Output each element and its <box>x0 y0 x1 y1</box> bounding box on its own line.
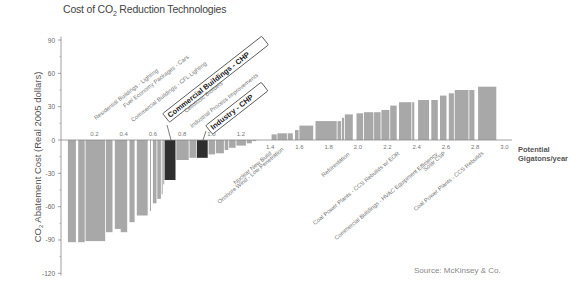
x-tick-label: 1.4 <box>266 144 275 150</box>
x-tick-label: 2.6 <box>442 144 451 150</box>
y-tick-label: 30 <box>48 103 56 110</box>
bar <box>277 133 287 140</box>
y-tick-label: -30 <box>46 170 56 177</box>
bar <box>68 140 76 242</box>
bar <box>390 106 397 140</box>
bar <box>150 140 151 211</box>
y-tick-label: -60 <box>46 203 56 210</box>
x-axis-label: Potential Gigatons/year <box>518 145 568 163</box>
bar <box>229 140 236 148</box>
bar <box>418 100 429 140</box>
bar <box>345 114 353 140</box>
bar-annotation: Reforestation <box>320 151 350 178</box>
bar <box>153 140 157 203</box>
bar <box>316 121 337 140</box>
bar-annotation: Nuclear New Build <box>232 150 272 185</box>
bar <box>163 140 164 184</box>
bar <box>342 118 344 140</box>
bar <box>176 140 188 160</box>
bar <box>338 121 342 140</box>
bar <box>295 130 299 140</box>
bar-annotation: Coal Power Plants - CCS Rebuilds w/ EOR <box>312 150 401 226</box>
abatement-cost-chart: 9060300-30-60-90-1200.20.40.60.81.01.21.… <box>0 0 587 295</box>
bar <box>399 102 411 140</box>
bar <box>190 140 197 158</box>
x-tick-label: 2.4 <box>412 144 421 150</box>
source-note: Source: McKinsey & Co. <box>414 266 501 275</box>
bar <box>86 140 106 241</box>
bar <box>469 90 474 140</box>
bar <box>381 110 389 140</box>
svg-text:Industry - CHP: Industry - CHP <box>209 92 256 131</box>
bar <box>440 96 447 140</box>
x-tick-label: 1.6 <box>295 144 304 150</box>
svg-text:Coal Power Plants - CCS Rebuil: Coal Power Plants - CCS Rebuilds w/ EOR <box>312 150 401 226</box>
x-tick-label: 2.2 <box>383 144 392 150</box>
bar <box>106 140 113 232</box>
bar <box>130 140 135 222</box>
bar <box>225 140 229 150</box>
bar-annotation: Onshore Wind - Low Penetration <box>216 146 284 205</box>
svg-text:Coal Power Plants - CCS Rebuil: Coal Power Plants - CCS Rebuilds <box>412 150 484 212</box>
y-tick-label: -90 <box>46 236 56 243</box>
bar <box>216 140 224 153</box>
bar <box>137 140 148 216</box>
svg-text:Nuclear New Build: Nuclear New Build <box>232 150 272 185</box>
bar <box>197 140 208 158</box>
bar <box>455 90 469 140</box>
bar <box>299 126 313 140</box>
y-tick-label: 60 <box>48 70 56 77</box>
bar <box>374 112 381 140</box>
x-tick-label: 0.6 <box>149 131 158 137</box>
bar <box>165 140 176 180</box>
x-tick-label: 0.4 <box>119 131 128 137</box>
x-tick-label: 2.8 <box>471 144 480 150</box>
x-tick-label: 3.0 <box>500 144 509 150</box>
bar <box>357 113 364 140</box>
y-tick-label: -120 <box>42 270 55 277</box>
y-tick-label: 0 <box>51 137 55 144</box>
bar <box>121 140 128 232</box>
bar <box>162 140 163 194</box>
bar <box>431 100 438 140</box>
bar <box>157 140 161 199</box>
bar <box>247 140 252 143</box>
bar <box>78 140 85 242</box>
bar <box>412 102 414 140</box>
bar <box>209 140 216 154</box>
svg-text:Onshore Wind - Low Penetration: Onshore Wind - Low Penetration <box>216 146 284 205</box>
x-tick-label: 1.8 <box>325 144 334 150</box>
x-tick-label: 1.2 <box>237 131 246 137</box>
x-tick-label: 0.8 <box>178 131 187 137</box>
bar <box>272 134 277 140</box>
bar <box>288 133 293 140</box>
bar <box>449 93 454 140</box>
bar-annotation: Coal Power Plants - CCS Rebuilds <box>412 150 484 212</box>
bar <box>364 112 374 140</box>
svg-text:Reforestation: Reforestation <box>320 151 350 178</box>
x-tick-label: 2.0 <box>354 144 363 150</box>
bar <box>236 140 246 146</box>
bar-annotation: Residential Buildings - Lighting <box>93 67 159 121</box>
y-tick-label: 90 <box>48 37 56 44</box>
svg-text:Residential Buildings - Lighti: Residential Buildings - Lighting <box>93 67 159 121</box>
x-tick-label: 0.2 <box>90 131 99 137</box>
bar <box>478 87 496 140</box>
